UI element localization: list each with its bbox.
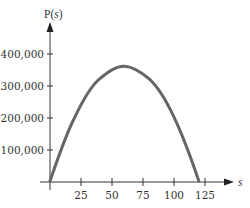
x-tick-label: 100 bbox=[164, 189, 184, 201]
x-axis-arrow-icon bbox=[224, 179, 234, 186]
y-axis-label: P(s) bbox=[44, 8, 63, 21]
chart: 100,000 200,000 300,000 400,000 25 50 75… bbox=[0, 0, 250, 208]
x-tick-label: 75 bbox=[136, 189, 149, 201]
y-axis-arrow-icon bbox=[47, 22, 54, 32]
profit-curve bbox=[50, 66, 199, 181]
x-tick-label: 25 bbox=[74, 189, 87, 201]
x-tick-label: 50 bbox=[105, 189, 118, 201]
y-tick-label: 200,000 bbox=[1, 112, 44, 124]
x-tick-label: 125 bbox=[195, 189, 215, 201]
y-tick-label: 300,000 bbox=[1, 80, 44, 92]
y-tick-label: 400,000 bbox=[1, 48, 44, 60]
x-axis-label: s bbox=[238, 176, 243, 188]
y-tick-label: 100,000 bbox=[1, 144, 44, 156]
